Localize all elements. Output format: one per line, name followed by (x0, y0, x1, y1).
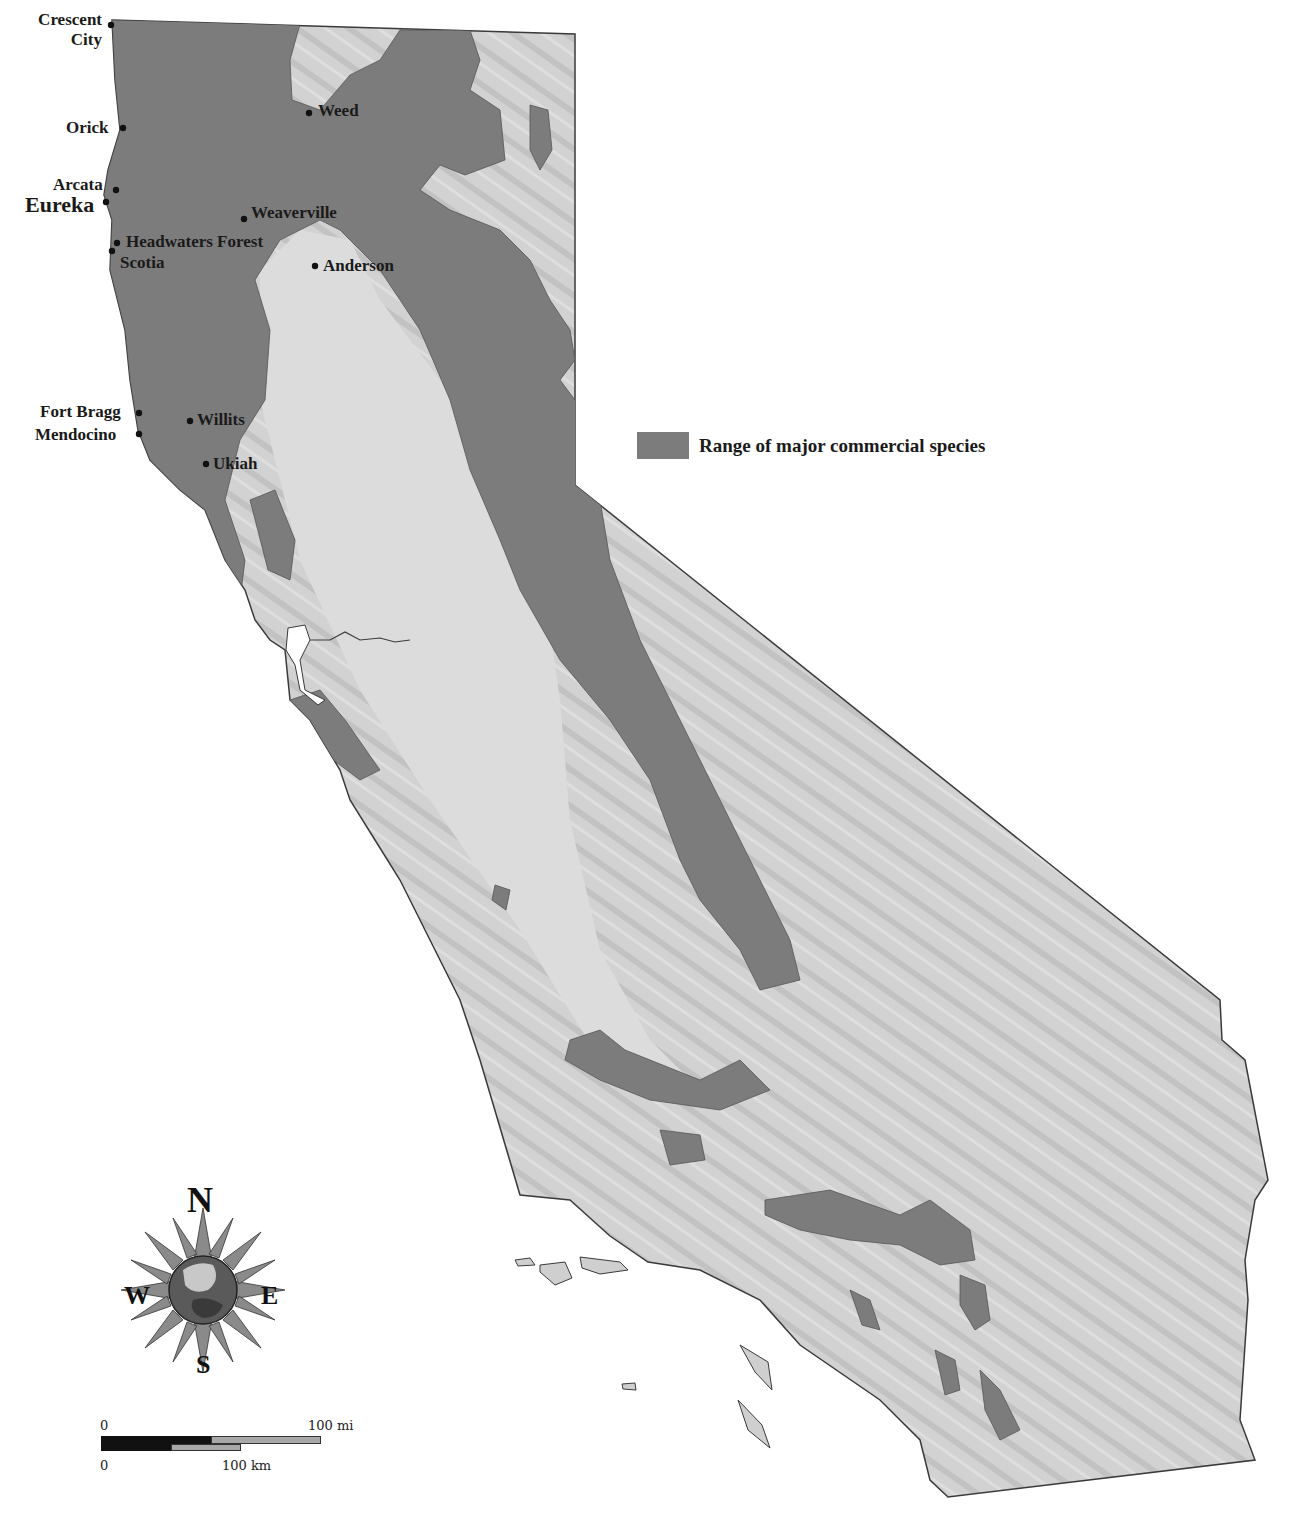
city-crescent-city-line1: Crescent (38, 10, 102, 29)
scale-mi-start: 0 (100, 1418, 108, 1433)
city-willits: Willits (197, 411, 245, 428)
legend-label: Range of major commercial species (699, 435, 985, 457)
compass-west: W (124, 1283, 150, 1309)
city-arcata: Arcata (53, 176, 103, 193)
scale-bar (101, 1436, 321, 1456)
city-orick: Orick (66, 119, 109, 136)
city-weed: Weed (318, 102, 359, 119)
city-anderson: Anderson (323, 257, 394, 274)
scale-km-dark (101, 1444, 171, 1451)
compass-north: N (187, 1182, 213, 1218)
city-crescent-city: Crescent City (22, 10, 102, 50)
city-mendocino: Mendocino (35, 426, 116, 443)
scale-mi-light (211, 1436, 321, 1444)
compass-east: E (261, 1283, 278, 1309)
scale-mi-dark (101, 1436, 211, 1444)
city-headwaters-forest: Headwaters Forest (126, 233, 263, 250)
city-crescent-city-line2: City (71, 30, 102, 49)
city-eureka: Eureka (25, 194, 94, 216)
city-scotia: Scotia (120, 254, 164, 271)
scale-km-light (171, 1444, 241, 1451)
compass-south: S (196, 1352, 210, 1378)
california-map (0, 0, 1306, 1513)
legend-swatch (637, 432, 689, 459)
city-fort-bragg: Fort Bragg (40, 403, 121, 420)
map-legend: Range of major commercial species (637, 432, 985, 459)
city-ukiah: Ukiah (213, 455, 257, 472)
city-weaverville: Weaverville (251, 204, 337, 221)
scale-km-start: 0 (100, 1458, 108, 1473)
scale-mi-end: 100 mi (308, 1418, 353, 1433)
scale-km-end: 100 km (222, 1458, 271, 1473)
